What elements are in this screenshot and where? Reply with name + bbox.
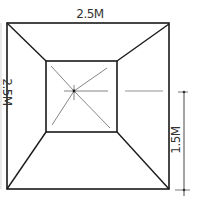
outer-square: [7, 23, 169, 189]
dimension-tick-bottom: [183, 189, 186, 192]
apex-lines: [51, 66, 110, 128]
apex-point: [73, 90, 76, 93]
dimension-tick-top: [183, 91, 186, 94]
roof-plan-diagram: 2.5M 1.5M 2.5M: [0, 0, 206, 209]
left-side-label: 2.5M: [0, 78, 14, 106]
right-height-label: 1.5M: [169, 126, 183, 154]
hip-lines: [7, 23, 169, 189]
top-width-label: 2.5M: [76, 7, 104, 21]
